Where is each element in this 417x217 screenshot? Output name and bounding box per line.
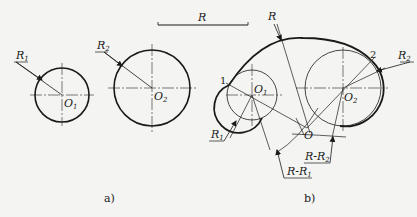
o1-label-b: O <box>254 83 263 96</box>
o2-label-b: O <box>344 91 353 104</box>
tangent-point-1: 1 <box>220 75 226 86</box>
center-o-label: O <box>304 129 313 142</box>
svg-text:R1: R1 <box>210 128 224 142</box>
svg-text:O1: O1 <box>64 97 78 111</box>
svg-text:O2: O2 <box>344 91 358 105</box>
svg-text:R1: R1 <box>15 49 29 63</box>
reference-length-R: R <box>158 11 248 25</box>
arc-tangency-diagram: R R1 O1 R2 O2 a) <box>0 0 417 217</box>
arc-R-label: R <box>267 10 276 23</box>
svg-text:O1: O1 <box>254 83 268 97</box>
reference-R-label: R <box>197 11 206 24</box>
caption-b: b) <box>304 192 315 205</box>
circle-o1-a: R1 O1 <box>14 49 94 126</box>
circle-o2-a: R2 O2 <box>95 39 198 133</box>
panel-a: R1 O1 R2 O2 a) <box>14 39 198 205</box>
svg-text:R-R1: R-R1 <box>286 165 312 179</box>
r-minus-r1-label: R-R <box>286 165 307 178</box>
o2-label-a: O <box>154 90 163 103</box>
r-minus-r2-label: R-R <box>304 150 325 163</box>
tangent-point-2: 2 <box>370 49 376 60</box>
svg-text:R2: R2 <box>397 49 411 63</box>
svg-text:R2: R2 <box>96 39 110 53</box>
panel-b: R R2 R1 R-R1 R-R2 1 2 O1 O2 O b) <box>209 10 414 205</box>
r1-label-a: R <box>15 49 24 62</box>
r1-label-b: R <box>210 128 219 141</box>
o1-label-a: O <box>64 97 73 110</box>
caption-a: a) <box>104 192 115 205</box>
r2-label-b: R <box>397 49 406 62</box>
r2-label-a: R <box>96 39 105 52</box>
svg-text:R-R2: R-R2 <box>304 150 330 164</box>
svg-text:O2: O2 <box>154 90 168 104</box>
